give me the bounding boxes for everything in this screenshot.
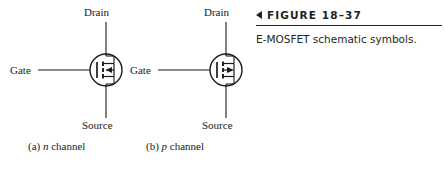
figure-caption: E-MOSFET schematic symbols.	[256, 32, 442, 46]
figure-callout-header: FIGURE 18–37	[256, 8, 442, 22]
figure-number: FIGURE 18–37	[267, 9, 362, 21]
figure-divider-rule	[256, 25, 442, 26]
figure-container: Drain Gate Source	[0, 0, 445, 170]
left-triangle-icon	[256, 11, 262, 19]
sub-caption-a: (a) n channel	[28, 139, 85, 153]
substrate-arrow-b	[227, 67, 234, 73]
sub-caption-b: (b) p channel	[146, 139, 204, 153]
sub-caption-b-prefix: (b)	[146, 140, 162, 152]
sub-caption-a-prefix: (a)	[28, 140, 43, 152]
sub-caption-b-suffix: channel	[167, 140, 204, 152]
figure-callout: FIGURE 18–37 E-MOSFET schematic symbols.	[256, 8, 442, 46]
substrate-arrow-a	[106, 67, 112, 73]
sub-caption-a-suffix: channel	[48, 140, 85, 152]
